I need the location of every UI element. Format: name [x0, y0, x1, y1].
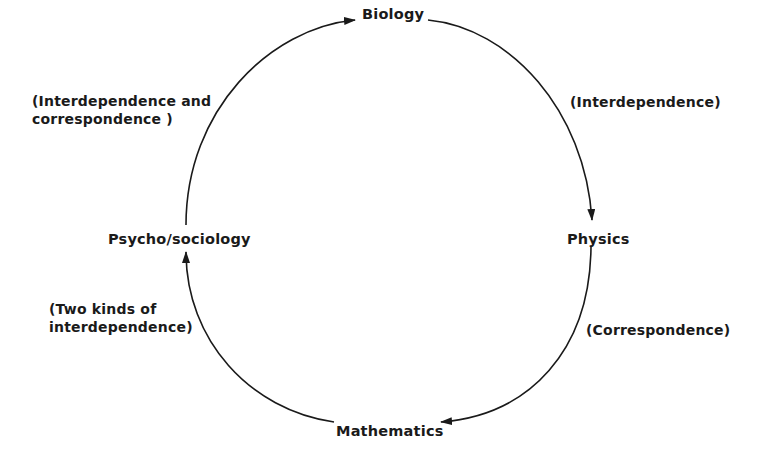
arc-mathematics-to-psycho: [186, 252, 334, 422]
edge-label-mathematics-psycho: (Two kinds of interdependence): [49, 300, 193, 336]
node-physics: Physics: [567, 230, 630, 248]
edge-label-line: (Correspondence): [586, 321, 730, 339]
node-biology: Biology: [362, 5, 424, 23]
edge-label-physics-mathematics: (Correspondence): [586, 321, 730, 339]
arc-biology-to-physics: [428, 20, 592, 220]
node-mathematics: Mathematics: [336, 422, 444, 440]
node-psycho-sociology: Psycho/sociology: [108, 230, 251, 248]
arc-psycho-to-biology: [186, 20, 355, 225]
edge-label-psycho-biology: (Interdependence and correspondence ): [32, 92, 211, 128]
arc-physics-to-mathematics: [441, 247, 591, 422]
edge-label-line: (Interdependence and: [32, 92, 211, 110]
edge-label-line: interdependence): [49, 318, 193, 336]
edge-label-biology-physics: (Interdependence): [570, 93, 721, 111]
edge-label-line: (Interdependence): [570, 93, 721, 111]
edge-label-line: correspondence ): [32, 110, 211, 128]
edge-label-line: (Two kinds of: [49, 300, 193, 318]
